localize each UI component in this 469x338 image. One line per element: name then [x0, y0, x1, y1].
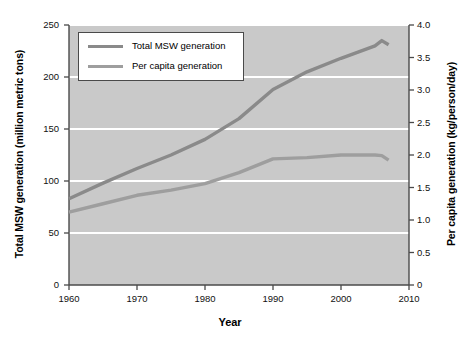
chart-figure: Total MSW generation (million metric ton…	[0, 0, 469, 338]
y-right-tick-label: 0.5	[417, 247, 447, 258]
x-tick-label: 1970	[117, 293, 157, 304]
legend-label-per-capita: Per capita generation	[132, 60, 222, 71]
x-tick-label: 2010	[389, 293, 429, 304]
y-right-tick-label: 2.0	[417, 149, 447, 160]
y-left-tick-label: 150	[29, 123, 59, 134]
y-axis-left-title: Total MSW generation (million metric ton…	[13, 19, 25, 289]
y-right-tick-label: 3.0	[417, 84, 447, 95]
x-tick-label: 2000	[321, 293, 361, 304]
y-left-tick-label: 100	[29, 175, 59, 186]
y-right-tick-label: 2.5	[417, 117, 447, 128]
y-left-tick-label: 0	[29, 279, 59, 290]
y-right-tick-label: 4.0	[417, 19, 447, 30]
chart-legend: Total MSW generation Per capita generati…	[78, 32, 244, 81]
y-right-tick-label: 1.0	[417, 214, 447, 225]
x-tick-label: 1960	[49, 293, 89, 304]
y-right-tick-label: 1.5	[417, 182, 447, 193]
x-axis-title: Year	[60, 316, 400, 328]
y-right-tick-label: 0	[417, 279, 447, 290]
y-left-tick-label: 250	[29, 19, 59, 30]
legend-label-total-msw: Total MSW generation	[132, 40, 225, 51]
y-left-tick-label: 200	[29, 71, 59, 82]
legend-item-per-capita: Per capita generation	[79, 58, 243, 76]
x-tick-label: 1980	[185, 293, 225, 304]
legend-swatch-total-msw	[88, 45, 123, 48]
legend-swatch-per-capita	[88, 65, 123, 68]
legend-item-total-msw: Total MSW generation	[79, 38, 243, 56]
y-right-tick-label: 3.5	[417, 52, 447, 63]
x-tick-label: 1990	[253, 293, 293, 304]
y-left-tick-label: 50	[29, 227, 59, 238]
